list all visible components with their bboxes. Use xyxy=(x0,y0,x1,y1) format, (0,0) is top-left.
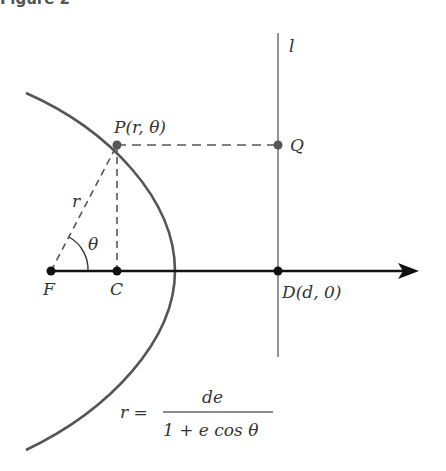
equation-numerator: de xyxy=(202,387,223,407)
equation-denominator: 1 + e cos θ xyxy=(163,420,258,440)
label-theta: θ xyxy=(88,234,98,254)
point-F xyxy=(47,267,56,276)
label-F: F xyxy=(42,279,56,299)
point-P xyxy=(113,141,122,150)
equation-lhs: r = xyxy=(120,402,148,422)
conic-diagram: P(r, θ) Q l r θ F C D(d, 0) r = de 1 + e… xyxy=(0,0,446,471)
point-D xyxy=(274,267,283,276)
label-Q: Q xyxy=(290,135,304,155)
point-Q xyxy=(274,141,283,150)
label-P: P(r, θ) xyxy=(113,117,166,137)
label-l: l xyxy=(289,36,294,56)
label-C: C xyxy=(110,279,123,299)
label-D: D(d, 0) xyxy=(281,282,341,302)
angle-arc xyxy=(69,237,88,271)
point-C xyxy=(113,267,122,276)
label-r: r xyxy=(72,191,81,211)
